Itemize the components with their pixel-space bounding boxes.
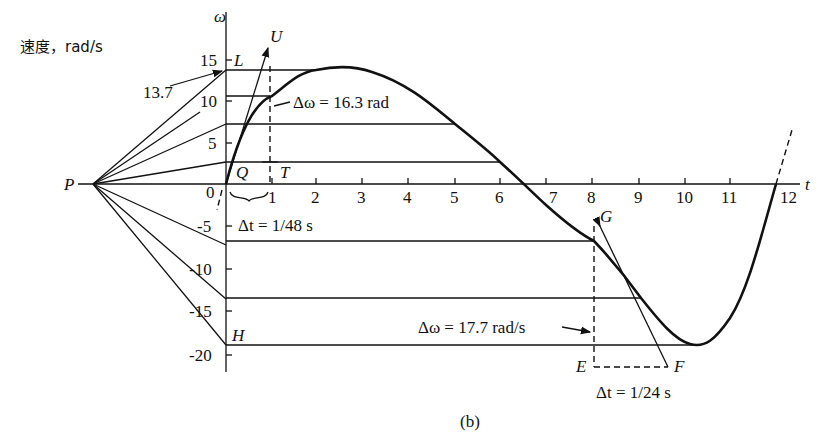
- svg-text:2: 2: [311, 188, 320, 207]
- x-ticks: [272, 178, 730, 184]
- svg-text:8: 8: [587, 188, 596, 207]
- t-symbol: t: [805, 175, 811, 194]
- svg-text:-20: -20: [189, 346, 212, 365]
- svg-text:7: 7: [549, 188, 558, 207]
- pole-label: P: [63, 175, 74, 194]
- omega-13-7-pointer: [170, 71, 222, 86]
- svg-text:6: 6: [495, 188, 504, 207]
- label-T: T: [280, 163, 291, 182]
- svg-text:9: 9: [634, 188, 643, 207]
- svg-text:12: 12: [780, 188, 797, 207]
- label-delta-omega-2: Δω = 17.7 rad/s: [418, 318, 525, 337]
- svg-text:10: 10: [200, 92, 217, 111]
- label-delta-t-1: Δt = 1/48 s: [238, 216, 313, 235]
- label-H: H: [231, 326, 246, 345]
- figure-label: (b): [460, 412, 480, 431]
- label-F: F: [673, 357, 685, 376]
- delta-omega-1-leader: [274, 102, 290, 106]
- label-L: L: [233, 51, 243, 70]
- svg-text:-15: -15: [189, 302, 212, 321]
- svg-text:3: 3: [357, 188, 366, 207]
- delta-omega-2-pointer: [562, 327, 590, 332]
- svg-text:1: 1: [268, 188, 277, 207]
- svg-text:-5: -5: [197, 217, 211, 236]
- label-U: U: [270, 27, 284, 46]
- svg-text:11: 11: [721, 188, 737, 207]
- omega-symbol: ω: [214, 7, 226, 26]
- svg-text:5: 5: [450, 188, 459, 207]
- label-G: G: [600, 207, 612, 226]
- label-E: E: [575, 357, 587, 376]
- y-ticks: [226, 60, 232, 355]
- svg-text:10: 10: [676, 188, 693, 207]
- label-Q: Q: [236, 163, 248, 182]
- y-axis-title: 速度，rad/s: [20, 38, 103, 56]
- svg-text:-10: -10: [189, 260, 212, 279]
- svg-text:5: 5: [208, 134, 217, 153]
- label-13-7: 13.7: [143, 83, 173, 102]
- svg-text:0: 0: [206, 183, 215, 202]
- svg-text:4: 4: [403, 188, 412, 207]
- origin-dash: [217, 190, 222, 210]
- velocity-diagram: 速度，rad/s ω t P 13.7 L U Q T Δω = 16.3 ra…: [0, 0, 828, 432]
- svg-text:15: 15: [200, 51, 217, 70]
- label-delta-t-2: Δt = 1/24 s: [596, 383, 671, 402]
- delta-t-brace: [230, 192, 268, 201]
- label-delta-omega-1: Δω = 16.3 rad: [293, 93, 389, 112]
- curve-extension: [776, 130, 792, 184]
